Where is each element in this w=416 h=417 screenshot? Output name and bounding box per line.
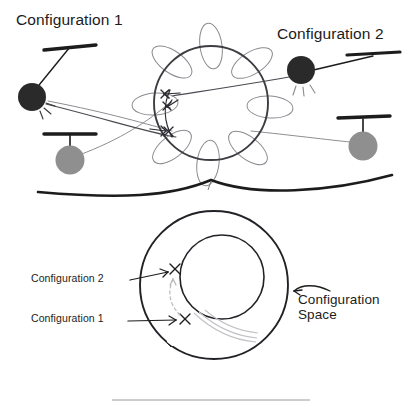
fiber-ellipse-se [223, 125, 273, 171]
pendulum-config-2 [287, 52, 400, 96]
figure-canvas [0, 0, 416, 417]
motion-lines-3 [293, 85, 315, 96]
label-configuration-2-cspace: Configuration 2 [31, 272, 104, 284]
pendulum-rest-right [338, 116, 390, 161]
configuration-space-line-1: Configuration [298, 293, 410, 308]
label-configuration-space: Configuration Space [298, 293, 410, 322]
configuration-space-line-2: Space [298, 308, 410, 323]
pendulum-bob-3 [287, 56, 315, 84]
pendulum-bob-2 [56, 146, 85, 175]
pendulum-config-1 [18, 45, 96, 119]
pendulum-rod-3 [305, 56, 373, 72]
cspace-path-arrowhead [170, 279, 176, 285]
manifold-circle [154, 46, 268, 160]
marker-config-2 [170, 264, 180, 274]
cspace-inner-circle [180, 235, 264, 319]
label-configuration-1-top: Configuration 1 [16, 11, 123, 29]
pendulum-bob-4 [349, 132, 378, 161]
manifold-marker-a [161, 90, 180, 98]
leader-config-2 [130, 269, 168, 280]
trajectory-line-3 [251, 131, 350, 142]
pendulum-support-bar-3 [347, 52, 400, 55]
top-panel-group [18, 22, 400, 196]
connector-config-2 [172, 77, 289, 96]
configuration-space-figure: Configuration 1 Configuration 2 Configur… [0, 0, 416, 417]
marker-config-1 [180, 314, 190, 324]
label-configuration-1-cspace: Configuration 1 [31, 312, 104, 324]
pendulum-bob-1 [18, 83, 46, 111]
trajectory-lines [48, 101, 350, 155]
cspace-path-arrow [170, 279, 180, 315]
fiber-ellipse-e [246, 94, 293, 119]
pendulum-support-bar-4 [338, 116, 390, 118]
label-configuration-2-top: Configuration 2 [277, 25, 384, 43]
pendulum-rest-left [44, 134, 96, 175]
pendulum-rod-1 [35, 47, 70, 90]
cspace-outer-circle [140, 211, 288, 359]
